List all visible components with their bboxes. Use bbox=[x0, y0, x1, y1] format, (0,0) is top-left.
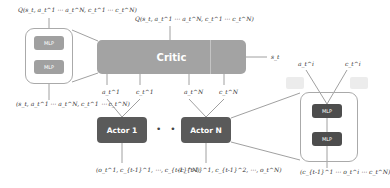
actor-mlp-layer-2: MLP bbox=[312, 132, 342, 146]
actorN-action-label: a_t^N bbox=[184, 88, 203, 95]
actor-detail-input-label: (c_{t-1}^1 ⋯ o_t^i ⋯ c_t^N) bbox=[300, 168, 390, 175]
actor-n-block: Actor N bbox=[181, 117, 231, 143]
actor-mlp-layer-1: MLP bbox=[312, 104, 342, 118]
critic-detail-output-label: Q(s_t, a_t^1 ⋯ a_t^N, c_t^1 ⋯ c_t^N) bbox=[18, 6, 137, 13]
state-input-label: s_t bbox=[271, 53, 280, 60]
actorN-comm-label: c_t^N bbox=[219, 88, 238, 95]
critic-output-label: Q(s_t, a_t^1 ⋯ a_t^N, c_t^1 ⋯ c_t^N) bbox=[135, 15, 254, 22]
critic-mlp-layer-2: MLP bbox=[34, 60, 64, 74]
critic-mlp-layer-1: MLP bbox=[34, 36, 64, 50]
plot-thumbnail-icon bbox=[350, 77, 368, 89]
actor1-action-label: a_t^1 bbox=[102, 88, 120, 95]
critic-detail-input-label: (s_t, a_t^1 ⋯ a_t^N, c_t^1 ⋯ c_t^N) bbox=[16, 100, 130, 107]
critic-label: Critic bbox=[97, 40, 246, 74]
critic-block: Critic bbox=[97, 40, 246, 74]
actor-1-block: Actor 1 bbox=[97, 117, 147, 143]
actor-detail-comm-label: c_t^i bbox=[345, 60, 361, 67]
actor-detail-action-label: a_t^i bbox=[298, 60, 314, 67]
actor1-comm-label: c_t^1 bbox=[136, 88, 154, 95]
actor-detail-container bbox=[300, 92, 358, 162]
actorN-input-label: (c_{t-1}^1, c_{t-1}^2, ⋯, o_t^N) bbox=[178, 166, 282, 173]
plot-thumbnail-icon bbox=[286, 77, 304, 89]
